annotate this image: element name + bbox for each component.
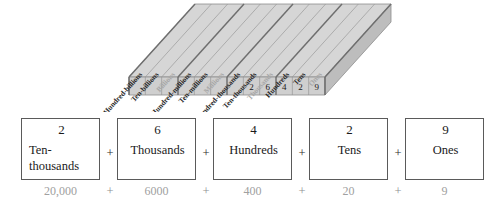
place-value-chart-svg: 26429 Hundred-billionsTen-billionsBillio… (0, 0, 503, 112)
term-place-name: Ten-thousands (22, 142, 101, 174)
plus-operator: + (295, 146, 309, 160)
plus-operator: + (103, 146, 117, 160)
term-box: 2Tens (309, 118, 388, 180)
term-value: 20,000 (21, 184, 100, 198)
term-place-name: Hundreds (214, 142, 293, 158)
term-box: 6Thousands (117, 118, 196, 180)
term-box: 9Ones (405, 118, 484, 180)
term-place-name: Thousands (118, 142, 197, 158)
plus-operator: + (391, 184, 405, 198)
term-digit: 2 (310, 122, 389, 137)
expanded-form-term: 9Ones9 (405, 118, 486, 209)
expanded-form-term: 4Hundreds400 (213, 118, 294, 209)
plus-operator: + (295, 184, 309, 198)
plus-operator: + (391, 146, 405, 160)
term-value: 6000 (117, 184, 196, 198)
plus-operator: + (199, 184, 213, 198)
term-place-name: Ones (406, 142, 485, 158)
term-digit: 2 (22, 122, 101, 137)
term-value: 20 (309, 184, 388, 198)
term-digit: 4 (214, 122, 293, 137)
expanded-form-row: 2Ten-thousands20,000++6Thousands6000++4H… (0, 118, 503, 209)
term-value: 400 (213, 184, 292, 198)
expanded-form-term: 2Tens20 (309, 118, 390, 209)
term-digit: 9 (406, 122, 485, 137)
term-box: 2Ten-thousands (21, 118, 100, 180)
place-value-chart: 26429 Hundred-billionsTen-billionsBillio… (0, 0, 503, 112)
term-place-name: Tens (310, 142, 389, 158)
expanded-form-term: 2Ten-thousands20,000 (21, 118, 102, 209)
term-box: 4Hundreds (213, 118, 292, 180)
plus-operator: + (103, 184, 117, 198)
plus-operator: + (199, 146, 213, 160)
expanded-form-term: 6Thousands6000 (117, 118, 198, 209)
term-value: 9 (405, 184, 484, 198)
term-digit: 6 (118, 122, 197, 137)
